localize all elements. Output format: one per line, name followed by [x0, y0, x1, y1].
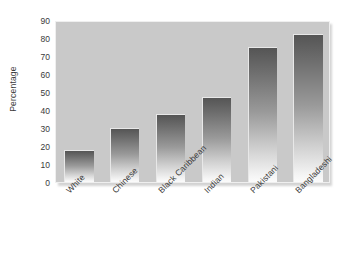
bar-chart: Percentage 0102030405060708090 WhiteChin… — [0, 0, 346, 273]
x-axis-tick-label: Bangladeshi — [293, 154, 334, 195]
x-axis-tick-label: Chinese — [110, 165, 140, 195]
x-axis-tick-label: Black Caribbean — [156, 143, 208, 195]
x-axis-tick-label: Indian — [202, 171, 226, 195]
x-axis-tick-label: White — [64, 172, 87, 195]
x-axis-tick-labels: WhiteChineseBlack CaribbeanIndianPakista… — [0, 0, 346, 273]
x-axis-tick-label: Pakistani — [248, 163, 280, 195]
